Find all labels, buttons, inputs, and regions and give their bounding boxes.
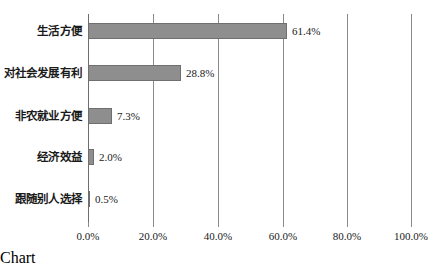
x-tick-label-60: 60.0% (248, 228, 318, 244)
tickmark-0 (88, 222, 89, 227)
x-tick-label-0: 0.0% (53, 228, 123, 244)
category-label: 经济效益 (0, 148, 82, 166)
bar-row: 经济效益 2.0% (0, 148, 441, 166)
bar-row: 对社会发展有利 28.8% (0, 64, 441, 82)
bar-非农就业方便 (88, 108, 112, 124)
bar-value-label: 7.3% (112, 107, 140, 125)
category-label: 非农就业方便 (0, 107, 82, 125)
tickmark-20 (153, 222, 154, 227)
category-label: 跟随别人选择 (0, 190, 82, 208)
category-label: 对社会发展有利 (0, 64, 82, 82)
bar-container: 7.3% (88, 107, 112, 125)
bar-container: 28.8% (88, 64, 181, 82)
category-label: 生活方便 (0, 22, 82, 40)
tickmark-100 (411, 222, 412, 227)
x-tick-label-20: 20.0% (118, 228, 188, 244)
bar-生活方便 (88, 23, 287, 39)
tickmark-40 (218, 222, 219, 227)
bar-row: 跟随别人选择 0.5% (0, 190, 441, 208)
bar-row: 生活方便 61.4% (0, 22, 441, 40)
x-axis-tick-marks (88, 222, 412, 227)
bar-value-label: 2.0% (94, 148, 122, 166)
tickmark-80 (347, 222, 348, 227)
tickmark-60 (283, 222, 284, 227)
bar-container: 2.0% (88, 148, 94, 166)
bar-row: 非农就业方便 7.3% (0, 107, 441, 125)
bar-value-label: 28.8% (181, 64, 214, 82)
x-axis-tick-labels: 0.0% 20.0% 40.0% 60.0% 80.0% 100.0% (0, 228, 441, 244)
x-tick-label-80: 80.0% (312, 228, 382, 244)
x-tick-label-40: 40.0% (183, 228, 253, 244)
bar-value-label: 61.4% (287, 22, 320, 40)
bar-container: 61.4% (88, 22, 287, 40)
bar-container: 0.5% (88, 190, 90, 208)
bar-value-label: 0.5% (90, 190, 118, 208)
x-tick-label-100: 100.0% (376, 228, 441, 244)
bar-对社会发展有利 (88, 65, 181, 81)
